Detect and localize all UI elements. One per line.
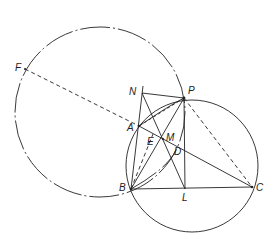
label-f: F [15, 62, 22, 73]
diagram-canvas: F N P A E M D B L C [0, 0, 277, 249]
label-p: P [188, 85, 195, 96]
line-bc [131, 187, 252, 189]
point-a [138, 125, 140, 127]
circumcircle-abc [126, 100, 258, 232]
point-p [183, 97, 186, 100]
arc-lower [131, 150, 176, 189]
point-m [162, 138, 164, 140]
line-pc-dashed [184, 98, 252, 187]
point-b [130, 188, 133, 191]
label-l: L [182, 192, 188, 203]
label-b: B [119, 182, 126, 193]
point-f [24, 68, 26, 70]
label-c: C [256, 182, 264, 193]
label-m: M [166, 132, 175, 143]
label-n: N [129, 86, 137, 97]
label-a: A [126, 122, 134, 133]
label-d: D [174, 146, 181, 157]
line-fa-dashed [25, 69, 139, 126]
point-c [251, 186, 254, 189]
label-e: E [147, 136, 154, 147]
line-pb [131, 98, 184, 189]
geometry-diagram: F N P A E M D B L C [0, 0, 277, 249]
line-ac [139, 126, 252, 187]
line-np [142, 93, 184, 98]
